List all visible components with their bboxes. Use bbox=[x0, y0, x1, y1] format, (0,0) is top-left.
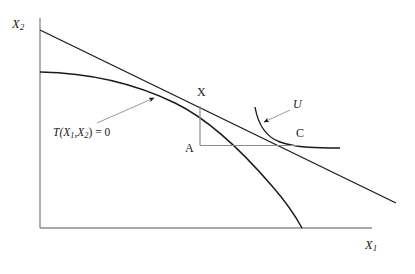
consumption-point-label: C bbox=[296, 127, 304, 139]
corner-point-label: A bbox=[185, 142, 194, 154]
production-point-label: X bbox=[197, 86, 206, 98]
ppf-leader-line bbox=[97, 98, 154, 123]
production-possibility-frontier-curve bbox=[40, 72, 302, 228]
ppf-function-label: T(X1,X2) = 0 bbox=[53, 127, 110, 140]
economics-figure: X2 X1 T(X1,X2) = 0 X A C U bbox=[0, 0, 415, 274]
x-axis-label: X1 bbox=[365, 239, 377, 253]
price-line bbox=[40, 30, 396, 203]
u-leader-line bbox=[264, 110, 290, 122]
y-axis-label: X2 bbox=[12, 18, 24, 32]
indifference-curve-label: U bbox=[293, 98, 302, 110]
